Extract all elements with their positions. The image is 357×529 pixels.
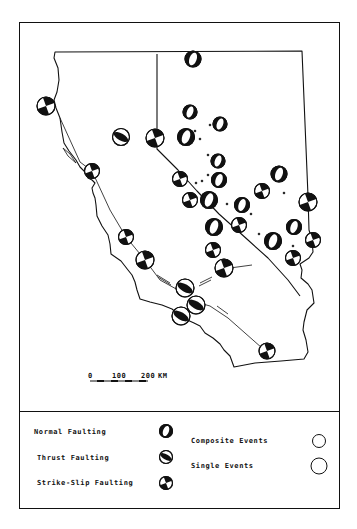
event-normal [213, 117, 227, 131]
event-normal [212, 173, 227, 188]
map-svg [0, 0, 357, 529]
event-strike-slip [37, 97, 55, 115]
scale-tick-200: 200 [141, 372, 155, 380]
seismicity-figure: 0 100 200 KM Normal Faulting Thrust Faul… [0, 0, 357, 529]
event-strike-slip [255, 184, 270, 199]
event-normal [265, 233, 282, 250]
legend-single-events: Single Events [191, 462, 254, 470]
event-thrust [112, 129, 130, 146]
arrow-icon [157, 275, 171, 285]
event-thrust [176, 279, 195, 297]
thrust-focal-mechanism-icon [159, 451, 172, 464]
event-strike-slip [299, 193, 317, 211]
event-normal [287, 220, 302, 235]
event-strike-slip [136, 251, 154, 269]
event-normal [185, 51, 201, 67]
arrow-icon [199, 277, 212, 286]
event-normal [183, 105, 197, 119]
legend-thrust-faulting: Thrust Faulting [37, 454, 109, 462]
legend-strike-slip-faulting: Strike-Slip Faulting [37, 479, 133, 487]
event-strike-slip [119, 230, 134, 245]
scale-unit: KM [158, 372, 167, 380]
arrow-icon [217, 306, 228, 314]
event-normal [271, 166, 287, 182]
event-size-icon [311, 458, 327, 474]
event-normal [211, 154, 225, 168]
event-normal [201, 192, 218, 209]
scale-tick-100: 100 [112, 372, 126, 380]
event-normal [206, 219, 223, 236]
event-normal [178, 129, 195, 146]
normal-focal-mechanism-icon [160, 425, 173, 438]
event-thrust [172, 307, 191, 325]
legend-normal-faulting: Normal Faulting [34, 428, 106, 436]
focal-mechanism-events [37, 51, 321, 359]
event-strike-slip [306, 233, 321, 248]
event-strike-slip [286, 251, 301, 266]
strike-slip-focal-mechanism-icon [160, 477, 173, 490]
event-strike-slip [206, 243, 221, 258]
event-strike-slip [215, 259, 233, 277]
northern-coastal-fault [63, 148, 76, 163]
event-strike-slip [232, 218, 247, 233]
event-strike-slip [183, 193, 198, 208]
scale-tick-0: 0 [88, 372, 93, 380]
event-strike-slip [85, 164, 100, 179]
legend-symbols [159, 425, 327, 490]
event-strike-slip [173, 172, 188, 187]
event-strike-slip [146, 129, 164, 147]
event-normal [235, 198, 250, 213]
event-thrust [187, 296, 206, 314]
event-size-icon [313, 435, 326, 448]
legend-composite-events: Composite Events [191, 437, 268, 445]
garlock-fault [196, 302, 262, 348]
event-strike-slip [259, 343, 275, 359]
